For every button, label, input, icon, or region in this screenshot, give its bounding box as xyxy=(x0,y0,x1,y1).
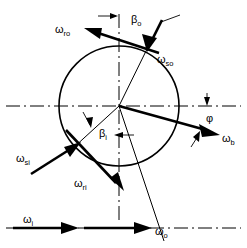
omega-i-subscript: i xyxy=(32,219,34,228)
omega-si-label: ωsi xyxy=(16,152,30,167)
phi-label: φ xyxy=(206,112,213,124)
beta-o-label: βo xyxy=(131,13,142,28)
vector-diagram-figure: ωro βo ωso φ ωb βi ω xyxy=(0,0,247,248)
omega-i-arrowhead xyxy=(61,222,79,234)
beta-o-angle-markers-group xyxy=(98,13,118,19)
radius-to-outer-station-line xyxy=(119,47,148,106)
omega-si-subscript: si xyxy=(25,158,31,167)
beta-i-left-tick-arrowhead xyxy=(86,117,93,128)
omega-ri-subscript: ri xyxy=(83,183,87,192)
omega-si-vector-shaft xyxy=(31,148,72,174)
omega-ro-arrowhead xyxy=(84,28,102,39)
phi-symbol: φ xyxy=(206,112,213,124)
omega-ri-label: ωri xyxy=(74,177,87,192)
phi-lower-tick-arrowhead xyxy=(193,131,200,142)
omega-i-label: ωi xyxy=(23,213,34,228)
omega-ri-arrowhead xyxy=(110,172,124,191)
omega-o-arrowhead xyxy=(134,222,152,234)
thin-radial-lines-group xyxy=(72,47,164,241)
omega-o-projection-line xyxy=(119,106,164,241)
omega-b-subscript: b xyxy=(231,138,235,147)
phi-upper-tick-arrowhead xyxy=(204,97,210,106)
omega-si-vector-group xyxy=(31,142,81,174)
omega-o-subscript: o xyxy=(164,231,168,240)
omega-so-label: ωso xyxy=(157,53,174,68)
omega-so-leader-line xyxy=(161,15,180,22)
omega-ro-subscript: ro xyxy=(64,29,71,38)
omega-ri-vector-shaft xyxy=(66,130,116,183)
omega-b-vector-group xyxy=(119,106,220,137)
omega-so-subscript: so xyxy=(166,59,174,68)
beta-i-subscript: i xyxy=(105,133,107,142)
beta-o-left-tick-arrowhead xyxy=(110,13,118,19)
omega-o-label: ωo xyxy=(155,225,168,240)
omega-b-label: ωb xyxy=(222,132,235,147)
omega-b-arrowhead xyxy=(199,124,220,137)
omega-so-leader-group xyxy=(161,15,180,22)
beta-o-subscript: o xyxy=(137,19,141,28)
omega-o-vector-group xyxy=(84,222,152,234)
velocity-vector-diagram-canvas: ωro βo ωso φ ωb βi ω xyxy=(0,0,247,248)
beta-i-label: βi xyxy=(99,127,107,142)
omega-b-vector-shaft xyxy=(119,106,206,130)
omega-ro-label: ωro xyxy=(55,23,70,38)
